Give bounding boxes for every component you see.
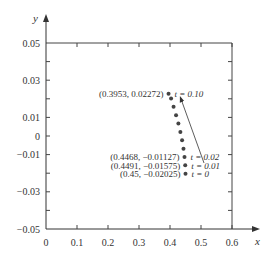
- data-point: [184, 172, 188, 176]
- point-coordinate-label: (0.3953, 0.02272): [99, 89, 164, 99]
- data-point: [169, 96, 173, 100]
- ticks: [46, 43, 232, 229]
- time-label: t = 0.10: [175, 89, 204, 99]
- data-point: [174, 113, 178, 117]
- tick-labels: 00.10.20.30.40.50.60.050.030.010−0.01−0.…: [17, 38, 238, 249]
- x-tick-label: 0.1: [71, 237, 84, 248]
- y-tick-label: 0.01: [23, 112, 41, 123]
- y-tick-label: −0.03: [17, 186, 40, 197]
- annotations: (0.3953, 0.02272)t = 0.10(0.4468, −0.011…: [99, 89, 220, 179]
- x-tick-label: 0.5: [195, 237, 208, 248]
- data-point: [172, 105, 176, 109]
- x-tick-label: 0.4: [164, 237, 177, 248]
- x-tick-label: 0: [44, 237, 49, 248]
- data-point: [178, 130, 182, 134]
- point-coordinate-label: (0.45, −0.02025): [120, 169, 181, 179]
- data-point: [181, 147, 185, 151]
- y-axis-label: y: [32, 12, 38, 24]
- time-label: t = 0: [192, 169, 210, 179]
- x-axis-label: x: [254, 235, 260, 247]
- data-point: [183, 155, 187, 159]
- y-tick-label: 0.03: [23, 75, 41, 86]
- axes: [46, 18, 256, 229]
- y-tick-label: 0.05: [23, 38, 41, 49]
- x-tick-label: 0.3: [133, 237, 146, 248]
- data-point: [176, 122, 180, 126]
- scatter-chart: 00.10.20.30.40.50.60.050.030.010−0.01−0.…: [0, 0, 274, 259]
- data-point: [180, 138, 184, 142]
- x-tick-label: 0.6: [226, 237, 239, 248]
- y-tick-label: −0.05: [17, 224, 40, 235]
- data-point: [183, 163, 187, 167]
- x-tick-label: 0.2: [102, 237, 115, 248]
- y-tick-label: −0.01: [17, 149, 40, 160]
- y-tick-label: 0: [35, 131, 40, 142]
- data-point: [167, 92, 171, 96]
- plot-frame: [46, 43, 232, 229]
